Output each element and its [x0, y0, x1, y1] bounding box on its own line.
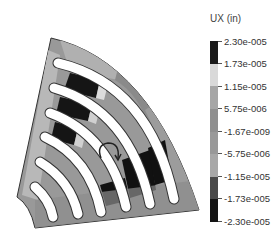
colorbar-tick	[218, 108, 222, 109]
colorbar	[210, 41, 218, 222]
tick-label: 5.75e-006	[224, 103, 267, 114]
colorbar-tick	[218, 131, 222, 132]
tick-label: -1.67e-009	[224, 126, 270, 137]
colorbar-segment	[210, 109, 218, 132]
tick-label: -2.30e-005	[224, 216, 270, 227]
colorbar-segment	[210, 177, 218, 200]
colorbar-tick	[218, 198, 222, 199]
colorbar-tick	[218, 86, 222, 87]
colorbar-tick	[218, 221, 222, 222]
tick-label: -5.75e-006	[224, 148, 270, 159]
colorbar-tick	[218, 41, 222, 42]
colorbar-segment	[210, 132, 218, 155]
colorbar-tick	[218, 176, 222, 177]
tick-label: -1.15e-005	[224, 171, 270, 182]
tick-label: 1.15e-005	[224, 81, 267, 92]
legend-title: UX (in)	[210, 13, 241, 24]
colorbar-tick	[218, 153, 222, 154]
colorbar-segment	[210, 154, 218, 177]
tick-label: 1.73e-005	[224, 58, 267, 69]
legend: UX (in) 2.30e-005 1.73e-005 1.15e-005 5.…	[205, 0, 277, 242]
colorbar-segment	[210, 41, 218, 64]
tick-label: 2.30e-005	[224, 36, 267, 47]
colorbar-segment	[210, 86, 218, 109]
tick-label: -1.73e-005	[224, 193, 270, 204]
colorbar-tick	[218, 63, 222, 64]
colorbar-segment	[210, 199, 218, 222]
colorbar-segment	[210, 64, 218, 87]
contour-plot	[0, 0, 205, 242]
